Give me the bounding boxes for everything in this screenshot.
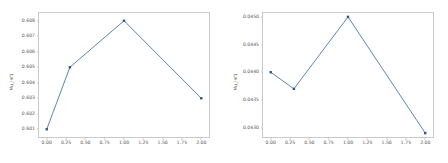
plot-area-right: 0.04300.04350.04400.04450.04500.000.250.… <box>262 12 434 138</box>
data-point-marker-right <box>270 71 272 73</box>
x-tick-mark-left <box>66 137 67 140</box>
x-tick-mark-right <box>386 137 387 140</box>
chart-panel-right: Mu_inf1 0.04300.04350.04400.04450.04500.… <box>224 0 448 163</box>
figure-container: Mu_inf1 0.6010.6020.6030.6040.6050.6060.… <box>0 0 448 163</box>
y-tick-mark-right <box>261 44 264 45</box>
y-axis-label-left: Mu_inf1 <box>10 73 14 90</box>
x-tick-mark-left <box>201 137 202 140</box>
x-tick-mark-left <box>46 137 47 140</box>
x-tick-mark-left <box>124 137 125 140</box>
x-tick-mark-right <box>425 137 426 140</box>
y-tick-mark-right <box>261 16 264 17</box>
data-point-marker-left <box>46 128 48 130</box>
plot-area-left: 0.6010.6020.6030.6040.6050.6060.6070.608… <box>38 12 210 138</box>
x-tick-mark-right <box>367 137 368 140</box>
y-tick-mark-right <box>261 127 264 128</box>
y-tick-mark-left <box>37 36 40 37</box>
x-tick-mark-left <box>104 137 105 140</box>
x-tick-mark-left <box>143 137 144 140</box>
data-point-marker-right <box>347 16 349 18</box>
y-tick-mark-left <box>37 82 40 83</box>
chart-panel-left: Mu_inf1 0.6010.6020.6030.6040.6050.6060.… <box>0 0 224 163</box>
data-line-right <box>271 17 426 133</box>
y-tick-mark-left <box>37 129 40 130</box>
x-tick-mark-left <box>85 137 86 140</box>
x-tick-mark-right <box>328 137 329 140</box>
line-plot-left <box>39 13 209 137</box>
y-tick-mark-left <box>37 98 40 99</box>
x-tick-mark-right <box>290 137 291 140</box>
y-tick-mark-right <box>261 72 264 73</box>
x-tick-mark-right <box>309 137 310 140</box>
x-tick-mark-left <box>162 137 163 140</box>
data-point-marker-right <box>293 88 295 90</box>
data-point-marker-left <box>200 97 202 99</box>
data-line-left <box>47 21 202 130</box>
y-tick-mark-right <box>261 99 264 100</box>
y-tick-mark-left <box>37 20 40 21</box>
x-tick-mark-right <box>270 137 271 140</box>
x-tick-mark-right <box>348 137 349 140</box>
x-tick-mark-right <box>405 137 406 140</box>
y-tick-mark-left <box>37 51 40 52</box>
y-tick-mark-left <box>37 113 40 114</box>
line-plot-right <box>263 13 433 137</box>
y-tick-mark-left <box>37 67 40 68</box>
data-point-marker-left <box>69 66 71 68</box>
data-point-marker-right <box>424 132 426 134</box>
y-axis-label-right: Mu_inf1 <box>234 73 238 90</box>
x-tick-mark-left <box>181 137 182 140</box>
data-point-marker-left <box>123 20 125 22</box>
